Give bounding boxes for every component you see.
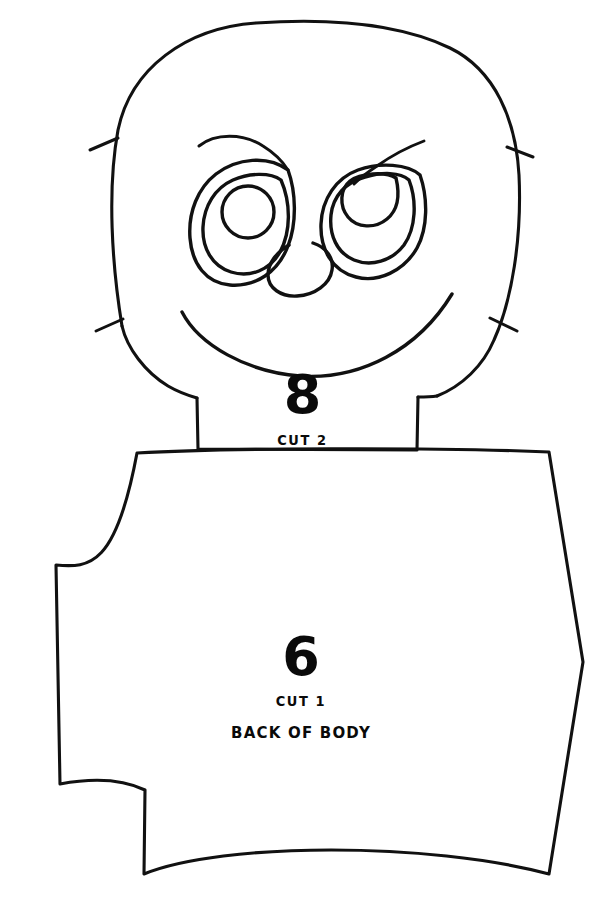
body-piece-cut-note: CUT 1 [0, 693, 611, 709]
head-piece-cut-note: CUT 2 [0, 432, 611, 448]
left-eyebrow [199, 136, 288, 170]
pattern-sheet: 8 CUT 2 6 CUT 1 BACK OF BODY [0, 0, 611, 898]
notch-upper-right [507, 147, 533, 157]
right-eye-pupil [342, 174, 398, 226]
face-drawing [182, 136, 452, 376]
body-piece-number: 6 [0, 630, 611, 684]
left-eye-middle [203, 174, 288, 274]
left-eye-pupil [222, 186, 274, 238]
body-piece-part-note: BACK OF BODY [0, 723, 611, 742]
notch-lower-right [490, 318, 517, 331]
head-notches [90, 138, 533, 331]
nose [268, 243, 332, 296]
pattern-drawing [0, 0, 611, 898]
notch-lower-left [96, 319, 123, 331]
head-piece-number: 8 [0, 368, 611, 422]
